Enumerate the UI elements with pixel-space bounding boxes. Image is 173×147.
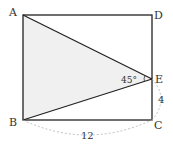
length-ec-label: 4 [158,94,164,105]
label-a: A [8,6,18,19]
label-b: B [9,116,17,129]
triangle-abe [23,15,152,120]
length-bc-label: 12 [81,130,94,141]
geometry-diagram: A D E B C 45° 12 4 [0,0,173,147]
label-c: C [154,119,162,132]
label-e: E [155,73,163,86]
angle-label: 45° [121,75,137,85]
label-d: D [154,9,163,22]
